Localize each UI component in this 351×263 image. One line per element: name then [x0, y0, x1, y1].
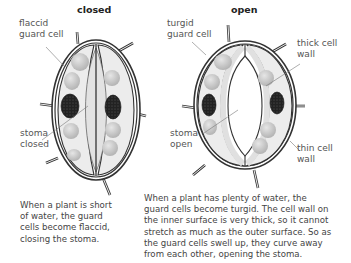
- caption-line: guard cells become turgid. The cell wall…: [144, 204, 331, 215]
- nucleus-right: [270, 92, 284, 114]
- label-thin-cell-wall: thin cell wall: [297, 143, 333, 165]
- label-stoma-open: stoma open: [170, 128, 198, 150]
- caption-line: from each other, opening the stoma.: [144, 249, 331, 260]
- label-flaccid-guard-cell: flaccid guard cell: [19, 18, 64, 40]
- open-caption: When a plant has plenty of water, the gu…: [144, 193, 331, 260]
- closed-title: closed: [77, 4, 111, 15]
- label-line: wall: [297, 154, 333, 165]
- label-thick-cell-wall: thick cell wall: [297, 38, 337, 60]
- label-line: open: [170, 139, 198, 150]
- label-line: stoma: [170, 128, 198, 139]
- caption-line: When a plant has plenty of water, the: [144, 193, 331, 204]
- caption-line: the guard cells swell up, they curve awa…: [144, 238, 331, 249]
- label-line: guard cell: [19, 29, 64, 40]
- label-line: wall: [297, 49, 337, 60]
- label-line: guard cell: [167, 29, 212, 40]
- open-stoma-diagram: [182, 25, 305, 188]
- leader-turgid-guard-cell: [192, 42, 206, 55]
- label-line: thin cell: [297, 143, 333, 154]
- closed-caption: When a plant is short of water, the guar…: [20, 200, 112, 245]
- caption-line: When a plant is short: [20, 200, 112, 211]
- open-title: open: [231, 4, 258, 15]
- nucleus-right: [105, 95, 121, 119]
- label-stoma-closed: stoma closed: [20, 128, 49, 150]
- leader-flaccid-guard-cell: [46, 47, 64, 66]
- label-line: closed: [20, 139, 49, 150]
- label-turgid-guard-cell: turgid guard cell: [167, 18, 212, 40]
- caption-line: stretch as much as the outer surface. So…: [144, 227, 331, 238]
- caption-line: the inner surface is very thick, so it c…: [144, 215, 331, 226]
- label-line: stoma: [20, 128, 49, 139]
- label-line: flaccid: [19, 18, 64, 29]
- caption-line: closing the stoma.: [20, 234, 112, 245]
- label-line: thick cell: [297, 38, 337, 49]
- closed-stoma-diagram: [40, 32, 146, 195]
- label-line: turgid: [167, 18, 212, 29]
- caption-line: cells become flaccid,: [20, 222, 112, 233]
- caption-line: of water, the guard: [20, 211, 112, 222]
- nucleus-left: [202, 94, 216, 116]
